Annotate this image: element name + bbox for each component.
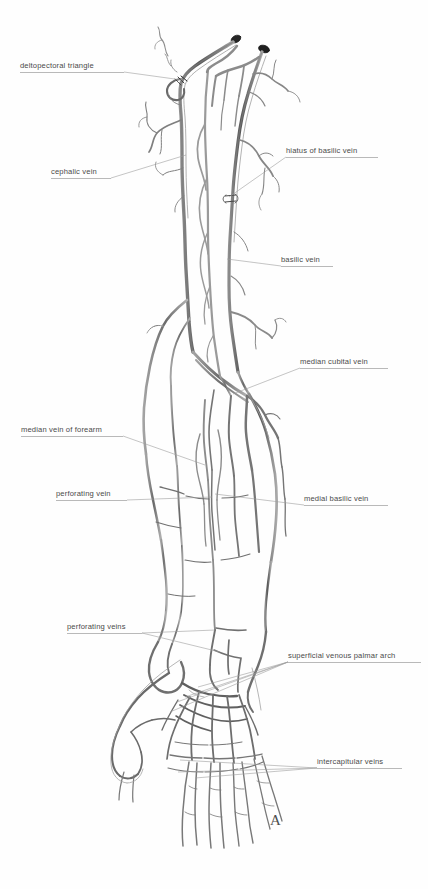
anatomical-figure: deltopectoral triangle cephalic vein hia… (0, 0, 428, 889)
wrist-veins (149, 630, 266, 712)
vein-network (111, 27, 300, 848)
cephalic-elbow-branches (144, 300, 190, 454)
cephalic-tributaries-upper (155, 27, 177, 72)
label-cephalic-vein: cephalic vein (51, 167, 111, 179)
leader-palmar-arch-a (198, 662, 288, 687)
leader-median-vein-of-forearm (123, 436, 205, 465)
cephalic-tributaries-arm (139, 95, 184, 212)
basilic-vein-trunk (229, 52, 266, 372)
median-vein-of-arm (197, 70, 220, 376)
label-intercapitular-veins: intercapitular veins (317, 757, 402, 769)
label-superficial-venous-palmar-arch: superficial venous palmar arch (288, 651, 421, 663)
median-cubital-vein (193, 352, 249, 402)
leader-lines (111, 72, 317, 778)
label-perforating-vein: perforating vein (56, 489, 127, 501)
cut-vessel-ends (230, 34, 271, 55)
vein-illustration (0, 0, 428, 889)
cephalic-vein-forearm (146, 386, 183, 644)
basilic-lateral-branch (231, 312, 286, 349)
panel-letter: A (270, 812, 281, 829)
leader-median-cubital-vein (233, 368, 300, 394)
leader-medial-basilic-vein (215, 494, 304, 505)
leader-hiatus-of-basilic-vein (229, 157, 286, 197)
label-deltopectoral-triangle: deltopectoral triangle (20, 61, 124, 73)
leader-deltopectoral-triangle (124, 72, 182, 80)
leader-perforating-veins-a (142, 630, 215, 633)
label-median-vein-of-forearm: median vein of forearm (21, 425, 123, 437)
label-median-cubital-vein: median cubital vein (300, 357, 388, 369)
label-medial-basilic-vein: medial basilic vein (304, 494, 388, 506)
leader-basilic-vein (227, 259, 281, 266)
intercapitular-veins (168, 742, 263, 772)
dorsal-metacarpal-veins (162, 692, 258, 763)
leader-cephalic-vein (111, 155, 186, 178)
hiatus-of-basilic-vein-marker (223, 194, 238, 203)
label-basilic-vein: basilic vein (281, 255, 333, 267)
label-perforating-veins: perforating veins (67, 622, 142, 634)
perforating-veins (156, 487, 250, 658)
label-hiatus-of-basilic-vein: hiatus of basilic vein (286, 146, 378, 158)
